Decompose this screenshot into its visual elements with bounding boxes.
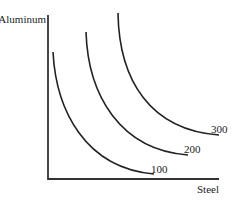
curve-label-100: 100: [151, 163, 168, 175]
x-axis-label: Steel: [197, 183, 219, 195]
curve-label-200: 200: [184, 143, 201, 155]
curve-300: [118, 13, 219, 135]
isoquant-chart: Aluminum Steel 100 200 300: [0, 0, 234, 201]
curve-100: [53, 52, 154, 174]
curve-label-300: 300: [211, 123, 228, 135]
curve-200: [86, 32, 188, 155]
y-axis-label: Aluminum: [0, 13, 46, 25]
